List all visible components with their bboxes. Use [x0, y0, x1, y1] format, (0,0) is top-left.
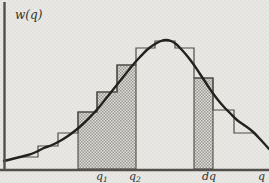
x-tick-label-q1-base: q	[96, 170, 103, 183]
x-axis-label: q	[258, 170, 265, 183]
shaded-area-dq	[194, 78, 213, 169]
x-tick-label-q1-sub: 1	[103, 175, 108, 183]
density-plot: w(q) q1 q2 dq q	[0, 0, 269, 183]
x-tick-label-q2-sub: 2	[135, 175, 141, 183]
figure: w(q) q1 q2 dq q	[0, 0, 269, 183]
x-tick-label-q2-base: q	[129, 170, 136, 183]
x-tick-label-dq: dq	[202, 170, 216, 183]
y-axis-label: w(q)	[15, 8, 43, 22]
